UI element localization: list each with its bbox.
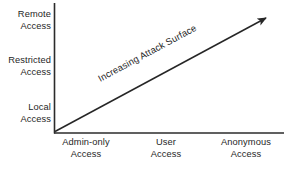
y-tick-local-line1: Local: [20, 102, 51, 114]
trend-arrow-line: [55, 18, 266, 132]
y-tick-remote-line1: Remote: [18, 9, 51, 21]
attack-surface-diagram: Remote Access Restricted Access Local Ac…: [0, 0, 284, 169]
y-axis-tick-label-local-access: Local Access: [20, 102, 51, 125]
y-axis-tick-label-remote-access: Remote Access: [18, 9, 51, 32]
y-axis-tick-label-restricted-access: Restricted Access: [8, 55, 51, 78]
y-tick-restricted-line1: Restricted: [8, 55, 51, 67]
y-tick-local-line2: Access: [20, 114, 51, 126]
x-tick-anonymous-line2: Access: [198, 149, 284, 161]
y-tick-restricted-line2: Access: [8, 67, 51, 79]
x-axis-tick-label-anonymous-access: Anonymous Access: [198, 137, 284, 160]
x-tick-anonymous-line1: Anonymous: [198, 137, 284, 149]
y-tick-remote-line2: Access: [18, 21, 51, 33]
